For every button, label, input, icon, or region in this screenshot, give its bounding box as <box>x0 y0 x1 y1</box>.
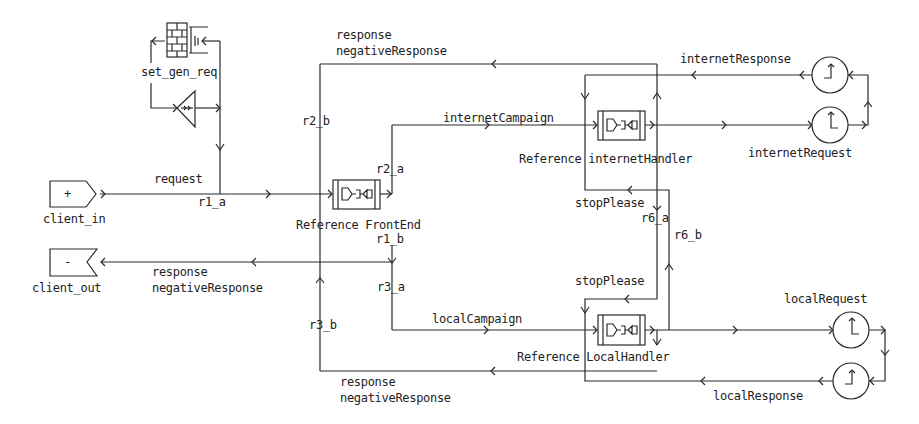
client-response-label: response <box>152 265 207 279</box>
bottom-response-label: response <box>340 375 395 389</box>
internet-handler-actor[interactable] <box>598 111 645 140</box>
r3a-label: r3_a <box>377 280 405 294</box>
client-in-label: client_in <box>43 212 105 226</box>
r6a-label: r6_a <box>641 211 669 225</box>
bottom-negative-response-label: negativeResponse <box>340 391 451 405</box>
client-negative-response-label: negativeResponse <box>152 281 263 295</box>
local-handler-label: Reference LocalHandler <box>517 350 669 364</box>
local-response-label: localResponse <box>713 389 803 403</box>
set-gen-req-label: set_gen_req <box>141 65 217 79</box>
minus-icon: - <box>64 255 71 269</box>
client-out-label: client_out <box>32 281 101 295</box>
merge-triangle-icon <box>177 91 195 127</box>
r2b-label: r2_b <box>302 114 330 128</box>
internet-request-label: internetRequest <box>748 146 852 160</box>
structure-diagram-canvas: + - <box>0 0 919 424</box>
r2a-label: r2_a <box>376 162 404 176</box>
client-out-port[interactable]: - <box>50 249 97 276</box>
internet-response-timer[interactable] <box>812 57 848 93</box>
r1a-label: r1_a <box>198 195 226 209</box>
local-campaign-label: localCampaign <box>432 312 522 326</box>
stop-please-bottom-label: stopPlease <box>575 274 644 288</box>
internet-handler-label: Reference internetHandler <box>519 152 692 166</box>
r3b-label: r3_b <box>309 318 337 332</box>
plus-icon: + <box>64 187 71 201</box>
internet-request-timer[interactable] <box>812 107 848 143</box>
brick-wall-icon[interactable] <box>167 23 208 57</box>
internet-response-label: internetResponse <box>680 52 791 66</box>
local-request-label: localRequest <box>784 292 867 306</box>
local-response-timer[interactable] <box>833 363 869 399</box>
internet-campaign-label: internetCampaign <box>443 111 554 125</box>
top-response-label: response <box>336 28 391 42</box>
client-in-port[interactable]: + <box>50 181 96 207</box>
local-handler-actor[interactable] <box>598 315 645 345</box>
local-request-timer[interactable] <box>833 312 869 348</box>
stop-please-top-label: stopPlease <box>575 196 644 210</box>
r1b-label: r1_b <box>376 232 404 246</box>
frontend-label: Reference FrontEnd <box>296 218 421 232</box>
request-label: request <box>154 172 202 186</box>
r6b-label: r6_b <box>674 228 702 242</box>
top-negative-response-label: negativeResponse <box>336 44 447 58</box>
frontend-actor[interactable] <box>333 180 380 209</box>
